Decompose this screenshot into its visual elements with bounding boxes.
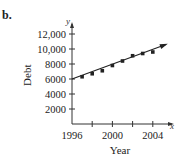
y-axis-title: Debt bbox=[21, 65, 33, 86]
fit-line bbox=[72, 44, 168, 79]
data-point bbox=[80, 75, 84, 79]
y-tick-label: 6000 bbox=[45, 74, 66, 85]
data-point bbox=[111, 64, 115, 68]
data-point bbox=[131, 54, 135, 58]
axis-labels: 200040006000800010,00012,000199620002004… bbox=[21, 16, 174, 156]
x-tick-label: 2004 bbox=[142, 130, 164, 141]
x-tick-label: 1996 bbox=[62, 130, 83, 141]
y-tick-label: 12,000 bbox=[37, 29, 66, 40]
regression-line bbox=[72, 45, 166, 80]
data-point bbox=[121, 59, 125, 63]
x-axis-title: Year bbox=[110, 144, 131, 156]
data-point bbox=[151, 50, 155, 54]
y-axis-symbol: y bbox=[65, 16, 70, 26]
x-axis-symbol: x bbox=[169, 121, 174, 131]
data-point bbox=[90, 72, 94, 76]
y-tick-label: 10,000 bbox=[37, 44, 66, 55]
scatter-chart: 200040006000800010,00012,000199620002004… bbox=[0, 0, 183, 164]
data-point bbox=[141, 52, 145, 56]
y-tick-label: 8000 bbox=[45, 59, 66, 70]
y-tick-label: 2000 bbox=[45, 104, 66, 115]
y-axis-arrow-icon bbox=[70, 22, 74, 28]
data-point bbox=[101, 69, 105, 73]
data-points bbox=[80, 50, 154, 78]
y-tick-label: 4000 bbox=[45, 89, 66, 100]
x-tick-label: 2000 bbox=[102, 130, 123, 141]
axis-ticks bbox=[69, 34, 153, 127]
line-arrow-icon bbox=[159, 44, 167, 49]
